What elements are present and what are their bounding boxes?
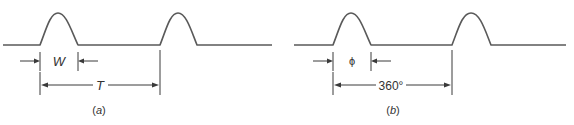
width-dimension-a: W <box>20 52 98 71</box>
pulse-train-diagram: W T (a) ϕ <box>0 0 574 125</box>
period-label: T <box>96 78 105 93</box>
caption-a: (a) <box>92 104 105 116</box>
caption-b: (b) <box>386 104 399 116</box>
panel-a: W T (a) <box>3 13 272 116</box>
period-degrees-label: 360° <box>379 79 404 93</box>
pulse-waveform-b <box>294 13 566 45</box>
pulse-width-label: W <box>53 54 67 69</box>
width-dimension-b: ϕ <box>313 52 391 71</box>
panel-b: ϕ 360° (b) <box>294 13 566 116</box>
phase-width-label: ϕ <box>349 55 355 67</box>
pulse-waveform-a <box>3 13 272 45</box>
